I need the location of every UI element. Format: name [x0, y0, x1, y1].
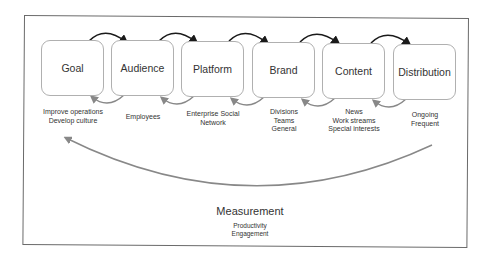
stage-label: Content	[335, 65, 372, 77]
stage-label: Platform	[193, 63, 232, 75]
stage-audience: Audience	[111, 40, 174, 96]
stage-platform: Platform	[181, 41, 244, 97]
back-arrow-1	[92, 95, 124, 103]
measurement-details: Productivity Engagement	[190, 222, 310, 238]
stage-brand: Brand	[252, 42, 315, 98]
stage-label: Goal	[61, 62, 83, 74]
stage-distribution: Distribution	[393, 44, 456, 100]
stage-distribution-details: Ongoing Frequent	[380, 111, 470, 128]
back-arrow-3	[232, 97, 264, 105]
stage-label: Brand	[269, 64, 297, 76]
measurement-feedback-arrow	[66, 138, 432, 186]
back-arrow-4	[303, 98, 335, 106]
detail-line: Ongoing	[380, 111, 470, 120]
stage-label: Distribution	[398, 66, 451, 78]
stage-goal: Goal	[41, 40, 104, 96]
detail-line: Frequent	[380, 120, 470, 129]
stage-content: Content	[322, 43, 385, 99]
detail-line: Productivity	[190, 222, 310, 230]
back-arrow-5	[374, 99, 406, 107]
back-arrow-2	[162, 96, 194, 104]
stage-label: Audience	[121, 62, 165, 74]
measurement-label: Measurement	[190, 205, 310, 217]
detail-line: Engagement	[190, 230, 310, 238]
